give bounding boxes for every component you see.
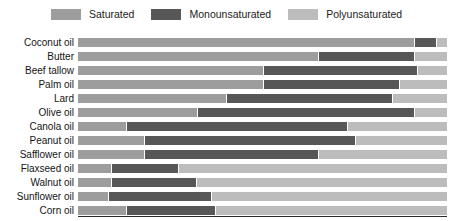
bar-row <box>78 189 447 203</box>
bar-row <box>78 77 447 91</box>
bar-row <box>78 175 447 189</box>
bar-segment-mono <box>318 52 414 61</box>
bar-row <box>78 35 447 49</box>
category-label: Beef tallow <box>0 63 78 77</box>
bar-segment-poly <box>355 136 447 145</box>
bar-segment-poly <box>318 150 447 159</box>
bar-segment-poly <box>347 122 447 131</box>
bar-segment-poly <box>414 52 447 61</box>
stacked-bar <box>78 150 447 159</box>
bar-segment-mono <box>226 94 392 103</box>
bar-row <box>78 203 447 217</box>
stacked-bar <box>78 94 447 103</box>
bar-segment-mono <box>126 206 215 215</box>
bar-row <box>78 63 447 77</box>
bar-segment-mono <box>263 66 418 75</box>
plot-area <box>78 32 447 217</box>
bar-segment-sat <box>78 164 111 173</box>
legend-item-polyunsaturated: Polyunsaturated <box>288 9 402 20</box>
bar-segment-mono <box>111 164 177 173</box>
legend-label-polyunsaturated: Polyunsaturated <box>326 9 402 20</box>
bar-segment-sat <box>78 52 318 61</box>
legend-swatch-icon-polyunsaturated <box>288 9 318 20</box>
stacked-bar <box>78 52 447 61</box>
category-label: Walnut oil <box>0 175 78 189</box>
legend-swatch-icon-saturated <box>51 9 81 20</box>
bar-segment-poly <box>178 164 447 173</box>
bar-segment-poly <box>414 108 447 117</box>
bar-segment-mono <box>108 192 211 201</box>
bar-segment-sat <box>78 206 126 215</box>
category-label: Sunflower oil <box>0 189 78 203</box>
category-label: Olive oil <box>0 105 78 119</box>
legend-item-saturated: Saturated <box>51 9 135 20</box>
bar-row <box>78 119 447 133</box>
category-label: Safflower oil <box>0 147 78 161</box>
bar-segment-mono <box>144 150 317 159</box>
bar-segment-sat <box>78 108 197 117</box>
bar-row <box>78 161 447 175</box>
bar-segment-mono <box>126 122 347 131</box>
bar-segment-sat <box>78 94 226 103</box>
bar-segment-sat <box>78 38 414 47</box>
stacked-bar <box>78 38 447 47</box>
stacked-bar <box>78 136 447 145</box>
legend-swatch-icon-monounsaturated <box>151 9 181 20</box>
bar-row <box>78 147 447 161</box>
stacked-bar <box>78 192 447 201</box>
chart-body: Coconut oilButterBeef tallowPalm oilLard… <box>0 32 453 217</box>
category-label: Palm oil <box>0 77 78 91</box>
bar-segment-sat <box>78 192 108 201</box>
category-label: Lard <box>0 91 78 105</box>
bar-segment-mono <box>111 178 196 187</box>
category-label: Coconut oil <box>0 35 78 49</box>
bar-segment-mono <box>263 80 400 89</box>
bar-row <box>78 105 447 119</box>
category-label: Butter <box>0 49 78 63</box>
legend-label-saturated: Saturated <box>89 9 135 20</box>
chart-container: Saturated Monounsaturated Polyunsaturate… <box>0 0 453 221</box>
bar-segment-poly <box>399 80 447 89</box>
bar-segment-poly <box>392 94 447 103</box>
category-label: Corn oil <box>0 203 78 217</box>
bar-segment-poly <box>215 206 447 215</box>
chart-legend: Saturated Monounsaturated Polyunsaturate… <box>0 9 453 20</box>
category-label: Canola oil <box>0 119 78 133</box>
axis-baseline <box>78 216 447 217</box>
stacked-bar <box>78 122 447 131</box>
bar-segment-sat <box>78 80 263 89</box>
legend-item-monounsaturated: Monounsaturated <box>151 9 271 20</box>
stacked-bar <box>78 66 447 75</box>
bar-segment-sat <box>78 150 144 159</box>
category-label: Flaxseed oil <box>0 161 78 175</box>
bar-segment-poly <box>211 192 447 201</box>
stacked-bar <box>78 178 447 187</box>
stacked-bar <box>78 164 447 173</box>
bar-segment-poly <box>436 38 447 47</box>
stacked-bar <box>78 108 447 117</box>
category-axis: Coconut oilButterBeef tallowPalm oilLard… <box>0 32 78 217</box>
stacked-bar <box>78 206 447 215</box>
bar-segment-mono <box>414 38 436 47</box>
bar-segment-sat <box>78 66 263 75</box>
bar-segment-sat <box>78 136 144 145</box>
bar-segment-poly <box>196 178 447 187</box>
bar-segment-sat <box>78 178 111 187</box>
bar-segment-poly <box>417 66 447 75</box>
bar-row <box>78 133 447 147</box>
bar-row <box>78 91 447 105</box>
bar-segment-mono <box>197 108 414 117</box>
legend-label-monounsaturated: Monounsaturated <box>189 9 271 20</box>
bar-segment-sat <box>78 122 126 131</box>
category-label: Peanut oil <box>0 133 78 147</box>
bar-segment-mono <box>144 136 354 145</box>
stacked-bar <box>78 80 447 89</box>
bar-row <box>78 49 447 63</box>
